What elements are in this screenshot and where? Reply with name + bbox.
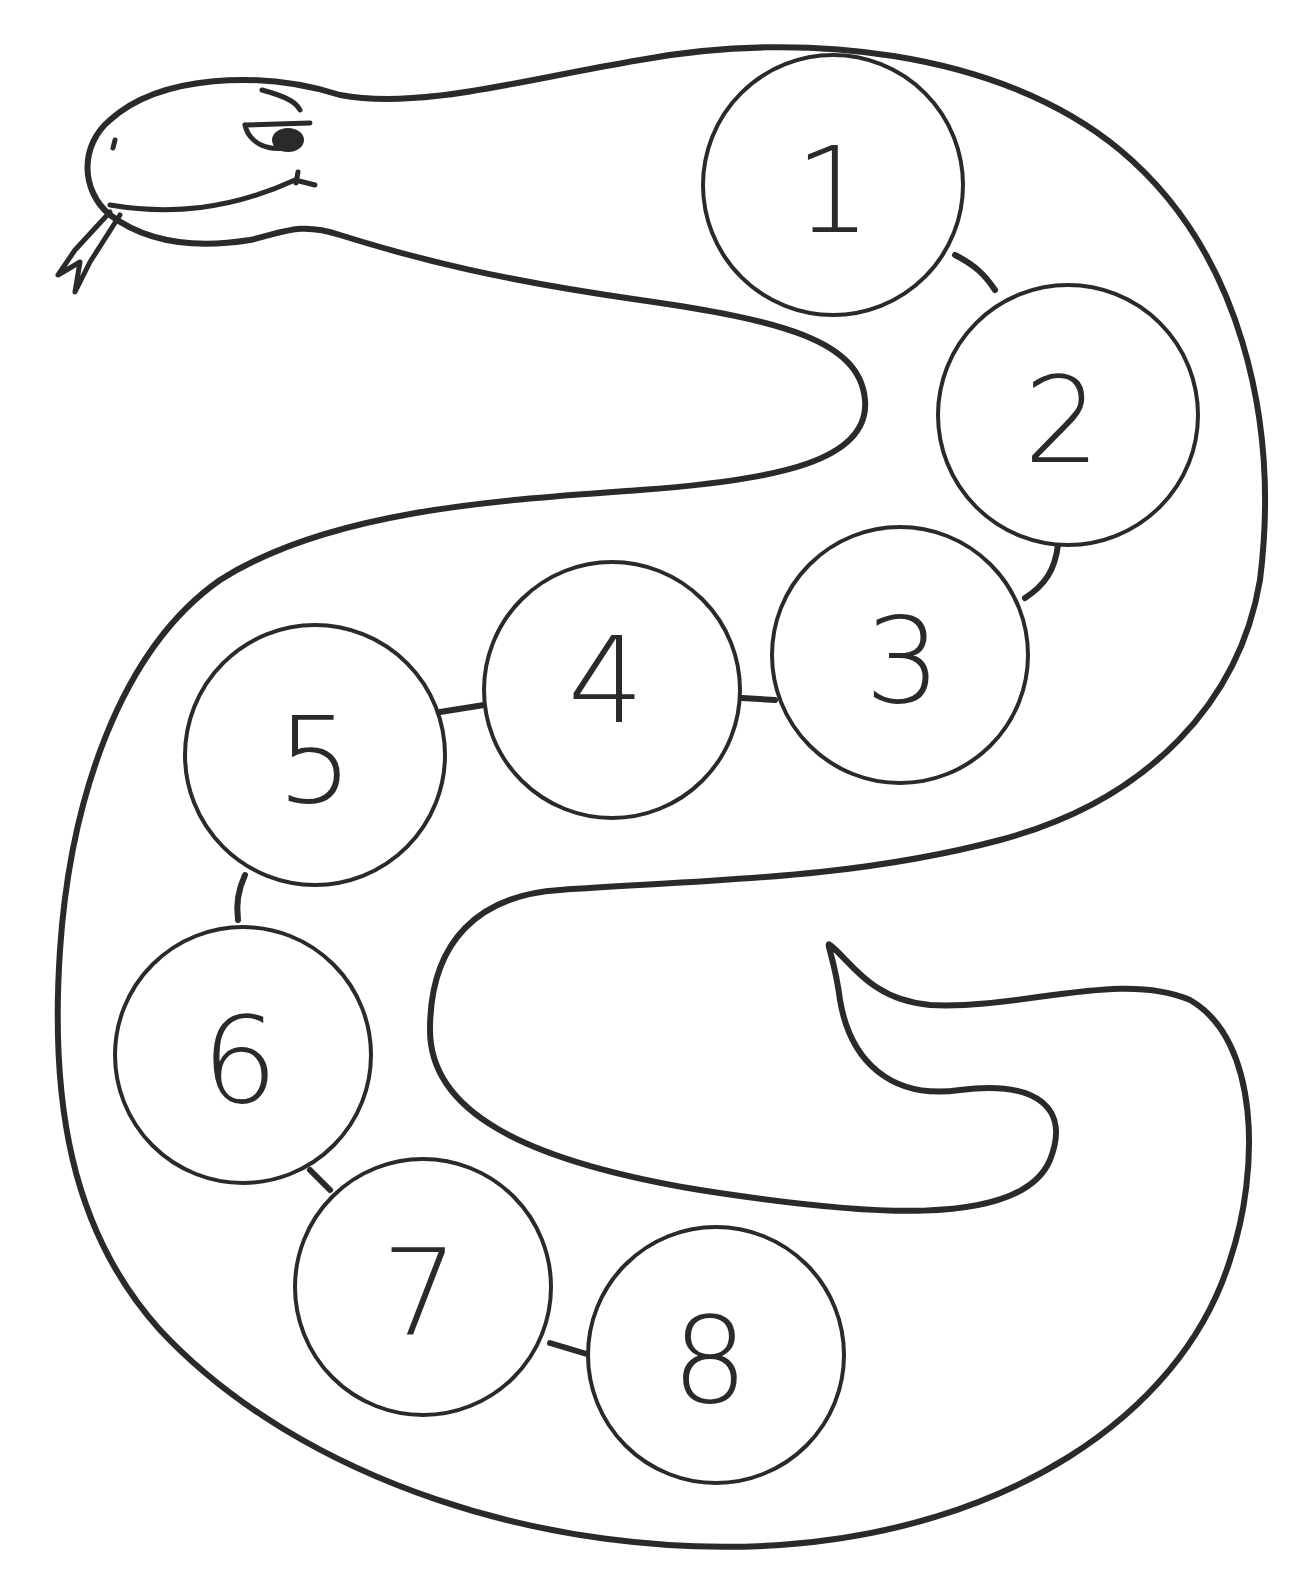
tongue-icon xyxy=(58,212,120,292)
number-circle-6[interactable]: 6 xyxy=(115,927,371,1183)
number-label: 8 xyxy=(672,1291,748,1430)
number-label: 3 xyxy=(865,591,941,730)
eye-lid xyxy=(245,123,310,125)
number-circle-2[interactable]: 2 xyxy=(938,285,1198,545)
number-circle-7[interactable]: 7 xyxy=(295,1159,551,1415)
number-label: 2 xyxy=(1024,351,1100,490)
numbered-circles: 1 2 3 4 5 6 7 8 xyxy=(115,55,1198,1483)
mouth-smile xyxy=(110,180,315,210)
number-label: 1 xyxy=(795,121,871,260)
number-circle-3[interactable]: 3 xyxy=(772,527,1028,783)
number-label: 7 xyxy=(382,1223,458,1362)
number-label: 5 xyxy=(277,691,353,830)
snake-coloring-page: 1 2 3 4 5 6 7 8 xyxy=(0,0,1315,1587)
nostril-icon xyxy=(113,140,115,148)
eyebrow-icon xyxy=(262,90,300,110)
number-label: 6 xyxy=(202,991,278,1130)
number-circle-5[interactable]: 5 xyxy=(185,625,445,885)
number-label: 4 xyxy=(568,611,644,750)
number-circle-4[interactable]: 4 xyxy=(484,562,740,818)
number-circle-1[interactable]: 1 xyxy=(703,55,963,315)
eye-pupil-icon xyxy=(272,128,304,152)
number-circle-8[interactable]: 8 xyxy=(588,1227,844,1483)
snake-head xyxy=(58,90,315,292)
